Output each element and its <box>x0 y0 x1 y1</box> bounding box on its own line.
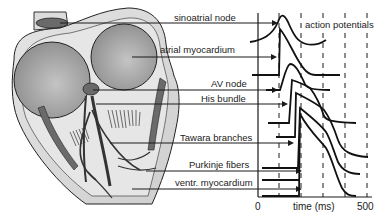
label-tawara-branches: Tawara branches <box>180 133 252 143</box>
label-his-bundle: His bundle <box>201 94 246 104</box>
label-av-node: AV node <box>211 79 247 89</box>
label-atrial-myocardium: atrial myocardium <box>160 45 235 55</box>
label-purkinje-fibers: Purkinje fibers <box>189 160 249 170</box>
heart-illustration <box>12 8 179 204</box>
label-ventr-myocardium: ventr. myocardium <box>175 178 253 188</box>
x-tick-0: 0 <box>255 202 261 212</box>
x-tick-500: 500 <box>357 202 374 212</box>
action-potential-plot <box>250 13 372 197</box>
panel-title: action potentials <box>304 20 375 30</box>
x-axis-label: time (ms) <box>293 202 335 212</box>
label-sinoatrial-node: sinoatrial node <box>174 13 236 23</box>
